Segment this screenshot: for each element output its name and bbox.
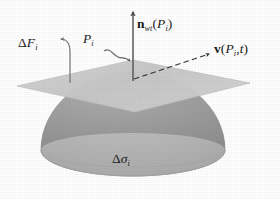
point-label: Pi [83,32,94,48]
velocity-argument: P [225,41,233,56]
velocity-vector-label: v(Pi,t) [214,42,248,58]
force-label: ΔFi [18,36,37,52]
force-subscript: i [35,43,37,52]
force-symbol: F [27,35,35,50]
normal-symbol: n [137,16,145,31]
point-subscript: i [91,39,93,48]
velocity-symbol: v [214,41,221,56]
sigma-symbol: σ [121,151,128,166]
point-leader-arrow[interactable] [104,50,130,61]
force-delta: Δ [18,35,27,50]
sigma-subscript: i [128,159,130,168]
velocity-paren-close: ) [244,41,249,56]
normal-vector-label: nwt(Pi) [137,17,172,33]
normal-paren-close: ) [168,16,173,31]
surface-element-label: Δσi [112,152,130,168]
sigma-delta: Δ [112,151,121,166]
diagram-figure: nwt(Pi) v(Pi,t) ΔFi Pi Δσi [0,0,280,199]
